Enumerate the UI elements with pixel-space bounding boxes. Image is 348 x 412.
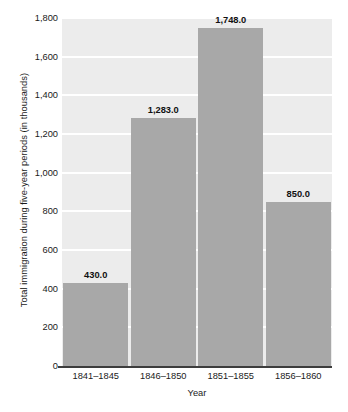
bar-value-label: 850.0 (266, 189, 331, 200)
bar (63, 283, 128, 366)
y-axis-tick-label: 1,200 (24, 129, 58, 139)
y-axis-tick-label: 0 (24, 361, 58, 371)
y-axis-tick-label: 600 (24, 245, 58, 255)
bar (131, 118, 196, 366)
bar-chart: Total immigration during five-year perio… (0, 0, 348, 412)
y-axis-tick-label: 1,800 (24, 13, 58, 23)
y-axis-tick-label: 1,000 (24, 168, 58, 178)
y-axis-tick-labels: 02004006008001,0001,2001,4001,6001,800 (24, 18, 58, 366)
y-axis-tick-label: 1,400 (24, 90, 58, 100)
x-axis-tick-label: 1846–1850 (130, 370, 198, 382)
x-axis-title: Year (62, 387, 332, 399)
x-axis-tick-label: 1851–1855 (197, 370, 265, 382)
bar (198, 28, 263, 366)
y-axis-tick-label: 800 (24, 206, 58, 216)
bar-value-label: 430.0 (63, 270, 128, 281)
y-axis-tick-label: 400 (24, 284, 58, 294)
x-axis-tick-label: 1856–1860 (265, 370, 333, 382)
bar-value-label: 1,748.0 (198, 15, 263, 26)
x-axis-tick-labels: 1841–18451846–18501851–18551856–1860 (62, 370, 332, 384)
x-axis-tick-label: 1841–1845 (62, 370, 130, 382)
y-axis-tick-label: 200 (24, 322, 58, 332)
x-axis-line (58, 366, 332, 368)
bar-value-label: 1,283.0 (131, 105, 196, 116)
y-axis-tick-label: 1,600 (24, 52, 58, 62)
bar (266, 202, 331, 366)
